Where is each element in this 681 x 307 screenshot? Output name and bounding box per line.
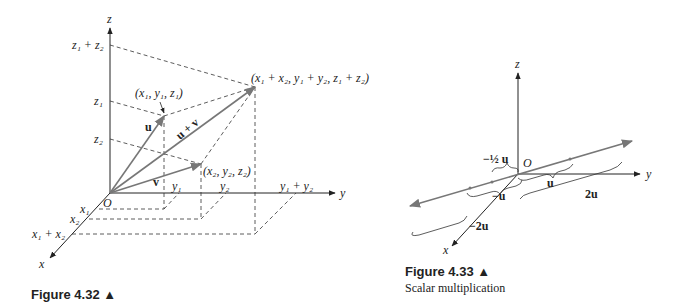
tick-z1: z₁ <box>93 94 103 108</box>
tick-x1-plus-x2: x₁ + x₂ <box>31 227 65 241</box>
label-u: u <box>547 176 554 190</box>
label-neg-2u: −2u <box>469 219 489 233</box>
tick-y1-plus-y2: y₁ + y₂ <box>279 179 313 193</box>
x-axis-label: x <box>442 243 449 257</box>
z-axis-label: z <box>106 12 112 26</box>
point-sum-label: (x₁ + x₂, y₁ + y₂, z₁ + z₂) <box>251 71 369 85</box>
y-axis-label: y <box>339 186 346 200</box>
tick-z1-plus-z2: z₁ + z₂ <box>71 38 104 52</box>
point-p1-label: (x₁, y₁, z₁) <box>135 86 183 100</box>
tick-z2: z₂ <box>93 132 103 146</box>
origin-label: O <box>523 156 532 170</box>
tick-x2: x₂ <box>69 212 80 226</box>
figure-4-33: z y x O −½ u u −u 2u −2u <box>410 57 652 257</box>
x-axis-label: x <box>38 257 45 271</box>
vector-u-label: u <box>145 120 152 134</box>
z-axis-label: z <box>514 57 520 71</box>
figure-4-32: z y x O z₁ + z₂ z₁ z₂ y₁ y₂ y₁ + y₂ x₁ x… <box>31 12 369 271</box>
tick-y1: y₁ <box>171 179 182 193</box>
vector-sum-label: u + v <box>173 115 202 142</box>
figure-4-32-caption: Figure 4.32 ▲ <box>31 287 116 302</box>
label-neg-half-u: −½ u <box>483 152 509 166</box>
figure-4-33-subtitle: Scalar multiplication <box>405 281 505 296</box>
origin-label: O <box>103 196 112 210</box>
figures-canvas: z y x O z₁ + z₂ z₁ z₂ y₁ y₂ y₁ + y₂ x₁ x… <box>0 0 681 307</box>
label-neg-u: −u <box>492 189 506 203</box>
tick-y2: y₂ <box>219 179 230 193</box>
figure-4-33-caption: Figure 4.33 ▲ <box>405 264 490 279</box>
vector-v-label: v <box>153 175 159 189</box>
point-p2-label: (x₂, y₂, z₂) <box>203 164 251 178</box>
label-2u: 2u <box>585 187 598 201</box>
y-axis-label: y <box>645 167 652 181</box>
tick-x1: x₁ <box>79 202 90 216</box>
